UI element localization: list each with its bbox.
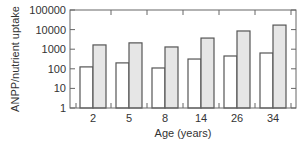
bar-chart: ANPP/nutrient uptake 1101001000100001000… (0, 0, 308, 153)
x-tick-label: 26 (231, 112, 243, 124)
y-axis-title-group: ANPP/nutrient uptake (9, 6, 21, 112)
y-tick-label: 100000 (29, 4, 66, 16)
y-tick-label: 1 (60, 102, 66, 114)
y-tick-label: 1000 (42, 43, 66, 55)
x-tick-label: 34 (267, 112, 279, 124)
bar-series-white-5 (116, 63, 129, 108)
bar-series-white-34 (260, 53, 273, 108)
x-tick-label: 8 (162, 112, 168, 124)
bar-series-white-8 (152, 68, 165, 108)
bar-series-grey-5 (129, 43, 142, 108)
y-tick-label: 100 (48, 63, 66, 75)
bar-series-white-2 (80, 67, 93, 108)
bar-series-grey-26 (237, 31, 250, 108)
y-tick-label: 10 (54, 82, 66, 94)
bars (80, 25, 286, 108)
bar-series-white-26 (224, 56, 237, 108)
bar-series-white-14 (188, 59, 201, 108)
y-tick-label: 10000 (35, 24, 66, 36)
x-axis-ticks: 258142634 (76, 10, 291, 124)
y-axis-title: ANPP/nutrient uptake (9, 6, 21, 112)
bar-series-grey-34 (273, 25, 286, 108)
bar-series-grey-8 (165, 47, 178, 108)
x-tick-label: 2 (90, 112, 96, 124)
bar-series-grey-14 (201, 38, 214, 108)
x-tick-label: 14 (195, 112, 207, 124)
x-axis-title: Age (years) (155, 127, 212, 139)
bar-series-grey-2 (93, 45, 106, 108)
x-tick-label: 5 (126, 112, 132, 124)
